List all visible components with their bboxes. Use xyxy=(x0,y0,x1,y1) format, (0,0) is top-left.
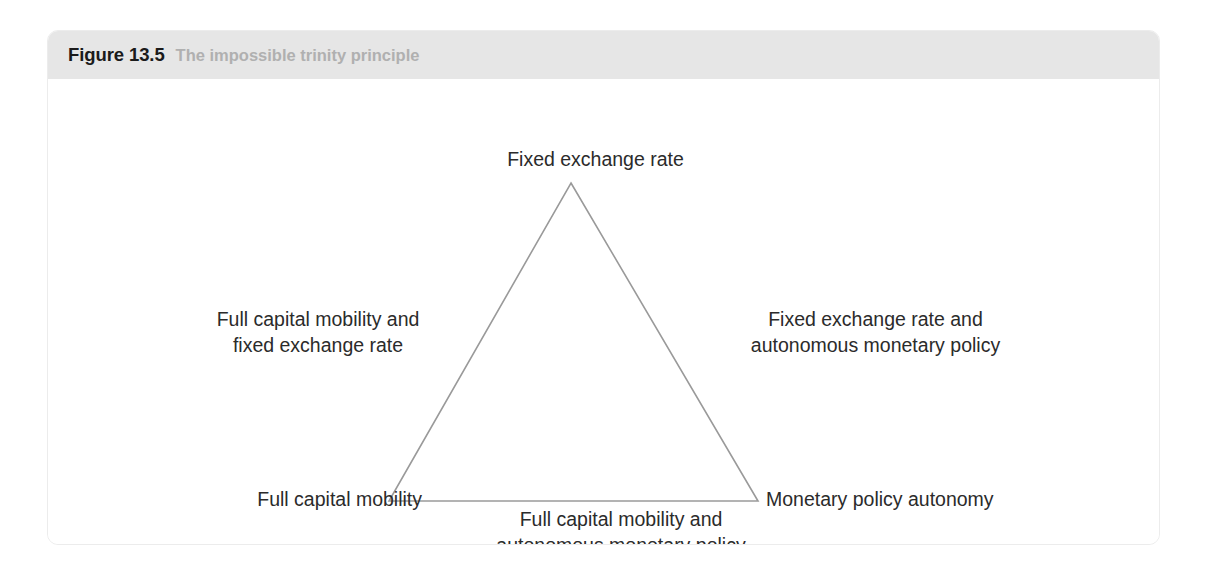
vertex-label-bottom-left: Full capital mobility xyxy=(257,487,422,513)
edge-label-right: Fixed exchange rate and autonomous monet… xyxy=(698,307,1053,358)
edge-label-bottom-line2: autonomous monetary policy xyxy=(401,533,841,545)
edge-label-right-line1: Fixed exchange rate and xyxy=(698,307,1053,333)
figure-number: Figure 13.5 xyxy=(68,44,165,66)
vertex-label-apex-text: Fixed exchange rate xyxy=(507,147,684,173)
figure-body: Fixed exchange rate Full capital mobilit… xyxy=(48,79,1159,545)
edge-label-bottom: Full capital mobility and autonomous mon… xyxy=(401,507,841,545)
edge-label-left-line2: fixed exchange rate xyxy=(173,333,463,359)
vertex-label-apex: Fixed exchange rate xyxy=(48,147,1160,173)
figure-caption: The impossible trinity principle xyxy=(176,46,420,65)
edge-label-right-line2: autonomous monetary policy xyxy=(698,333,1053,359)
edge-label-left-line1: Full capital mobility and xyxy=(173,307,463,333)
edge-label-bottom-line1: Full capital mobility and xyxy=(401,507,841,533)
edge-label-left: Full capital mobility and fixed exchange… xyxy=(173,307,463,358)
figure-header-band: Figure 13.5 The impossible trinity princ… xyxy=(48,31,1159,79)
figure-card: Figure 13.5 The impossible trinity princ… xyxy=(47,30,1160,545)
